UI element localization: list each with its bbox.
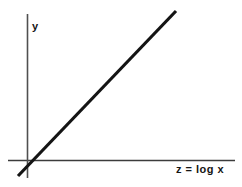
y-axis-label: y: [32, 21, 38, 32]
chart-figure: y z = log x: [0, 0, 242, 187]
x-axis-label: z = log x: [176, 164, 224, 175]
